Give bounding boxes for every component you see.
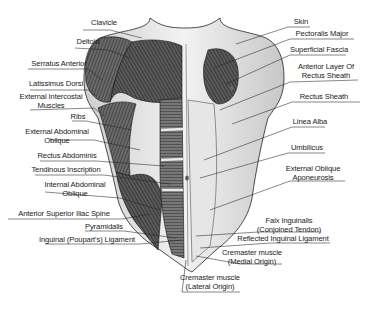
label-pyramidalis: Pyramidalis <box>84 223 124 232</box>
label-superficial-fascia: Superficial Fascia <box>288 46 350 55</box>
label-external-oblique-aponeurosis: External Oblique Aponeurosis <box>280 165 346 182</box>
label-cremaster-medial: Cremaster muscle (Medial Origin) <box>220 249 284 266</box>
label-serratus-anterior: Serratus Anterior <box>26 60 92 69</box>
umbilicus-mark <box>185 175 189 180</box>
label-rectus-sheath: Rectus Sheath <box>292 93 356 102</box>
label-anterior-superior-iliac-spine: Anterior Superior Iliac Spine <box>6 210 122 219</box>
label-external-abdominal-oblique: External Abdominal Oblique <box>22 128 92 145</box>
label-linea-alba: Linea Alba <box>292 118 328 127</box>
label-ribs: Ribs <box>68 113 88 122</box>
nipple-mark <box>230 86 234 90</box>
label-latissimus-dorsi: Latissimus Dorsi <box>26 80 86 89</box>
label-cremaster-lateral: Cremaster muscle (Lateral Origin) <box>178 274 242 291</box>
label-skin: Skin <box>290 18 312 27</box>
label-pectoralis-major: Pectoralis Major <box>290 30 354 39</box>
label-external-intercostal-muscles: External Intercostal Muscles <box>16 93 86 110</box>
label-inguinal-ligament: Inguinal (Poupart's) Ligament <box>36 236 138 245</box>
label-tendinous-inscription: Tendinous Inscription <box>28 166 104 175</box>
label-umbilicus: Umbilicus <box>288 144 326 153</box>
label-reflected-inguinal-ligament: Reflected Inguinal Ligament <box>234 235 332 244</box>
label-clavicle: Clavicle <box>80 19 128 28</box>
label-falx-inguinalis: Falx Inguinalis (Conjoined Tendon) <box>256 217 322 234</box>
label-deltoid: Deltoid <box>66 38 110 47</box>
label-anterior-layer-rectus-sheath: Anterior Layer Of Rectus Sheath <box>294 63 358 80</box>
pectoralis-window <box>204 49 239 104</box>
label-rectus-abdominis: Rectus Abdominis <box>34 152 100 161</box>
label-internal-abdominal-oblique: Internal Abdominal Oblique <box>40 181 110 198</box>
